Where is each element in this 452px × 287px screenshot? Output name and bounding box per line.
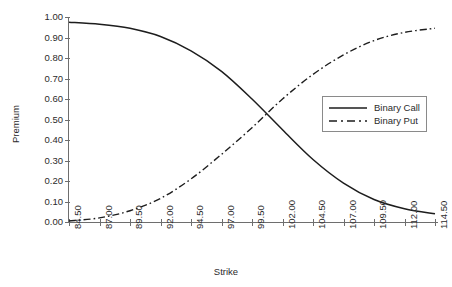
y-tick-label: 0.50: [29, 115, 63, 125]
binary-option-premium-chart: 0.000.100.200.300.400.500.600.700.800.90…: [0, 0, 452, 287]
x-tick-label: 92.00: [165, 205, 175, 229]
legend: Binary Call Binary Put: [322, 96, 427, 132]
y-tick-label: 0.40: [29, 135, 63, 145]
y-tick-label: 0.00: [29, 217, 63, 227]
x-tick-label: 114.50: [439, 201, 449, 229]
x-tick-label: 104.50: [317, 200, 327, 229]
dash-dot-line-swatch: [328, 116, 368, 126]
legend-label-binary-put: Binary Put: [374, 115, 418, 126]
x-tick-label: 112.00: [409, 201, 419, 229]
legend-item-binary-put: Binary Put: [328, 114, 420, 127]
y-tick-label: 0.90: [29, 33, 63, 43]
x-tick-label: 107.00: [348, 200, 358, 229]
x-axis-title: Strike: [0, 266, 452, 277]
x-tick-label: 89.50: [134, 205, 144, 229]
legend-label-binary-call: Binary Call: [374, 102, 420, 113]
y-tick-label: 0.60: [29, 94, 63, 104]
x-tick-label: 87.00: [104, 205, 114, 229]
y-tick-label: 0.10: [29, 197, 63, 207]
y-tick-label: 0.70: [29, 74, 63, 84]
plot-area: [0, 0, 452, 287]
legend-item-binary-call: Binary Call: [328, 101, 420, 114]
x-tick-label: 102.00: [287, 200, 297, 229]
x-tick-label: 99.50: [256, 205, 266, 229]
x-tick-label: 94.50: [195, 205, 205, 229]
y-tick-label: 0.30: [29, 156, 63, 166]
y-tick-label: 1.00: [29, 12, 63, 22]
solid-line-swatch: [328, 103, 368, 113]
x-tick-label: 84.50: [73, 205, 83, 229]
y-tick-label: 0.80: [29, 53, 63, 63]
y-axis-title: Premium: [10, 105, 21, 143]
x-tick-label: 109.50: [378, 200, 388, 229]
x-tick-label: 97.00: [226, 205, 236, 229]
y-tick-label: 0.20: [29, 176, 63, 186]
